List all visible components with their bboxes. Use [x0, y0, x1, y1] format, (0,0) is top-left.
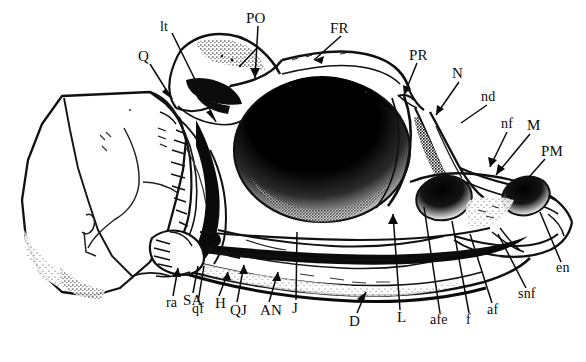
label-N: N: [452, 66, 463, 81]
label-L: L: [397, 310, 406, 325]
label-FR: FR: [330, 21, 349, 36]
label-nf: nf: [501, 117, 513, 131]
label-af: af: [487, 303, 498, 317]
label-M: M: [527, 118, 541, 133]
figure-panel: Q lt PO FR PR N nd nf M PM en snf af f a…: [0, 0, 586, 362]
label-lt: lt: [160, 20, 168, 34]
label-D: D: [349, 314, 360, 329]
label-PR: PR: [409, 48, 428, 63]
label-f: f: [466, 313, 471, 327]
label-ra: ra: [166, 296, 177, 310]
label-AN: AN: [260, 303, 282, 318]
label-H: H: [215, 296, 226, 311]
label-snf: snf: [518, 287, 536, 301]
label-PM: PM: [541, 144, 563, 159]
label-J: J: [292, 301, 298, 316]
orbit: [234, 76, 410, 222]
label-SA: SA: [183, 293, 203, 308]
label-Q: Q: [138, 49, 149, 64]
label-QJ: QJ: [230, 303, 247, 318]
label-PO: PO: [246, 11, 266, 26]
label-en: en: [556, 261, 570, 275]
label-afe: afe: [430, 313, 448, 327]
label-nd: nd: [481, 90, 495, 104]
